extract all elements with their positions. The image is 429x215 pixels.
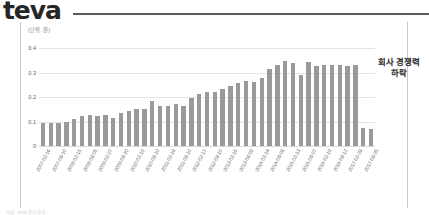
bar <box>260 78 264 146</box>
bar <box>127 111 131 146</box>
y-axis-tick-label: 0 <box>21 143 36 149</box>
x-axis-tick-label: 2010-08-10 <box>144 148 161 173</box>
bar <box>166 106 170 146</box>
bar <box>220 89 224 146</box>
bar <box>213 92 217 146</box>
bar <box>64 122 68 146</box>
bar <box>72 119 76 146</box>
bar <box>291 63 295 146</box>
y-axis-tick-label: 0.2 <box>21 94 36 100</box>
bar <box>306 62 310 146</box>
y-axis-tick-label: 0.1 <box>21 119 36 125</box>
bar-series <box>39 36 375 146</box>
bar <box>361 128 365 146</box>
bar <box>56 123 60 146</box>
x-axis-tick-label: 2012-02-17 <box>191 148 208 173</box>
bar <box>353 65 357 146</box>
x-axis-tick-label: 2015-08-07 <box>300 148 317 173</box>
y-axis-tick-label: 0.3 <box>21 70 36 76</box>
x-axis-tick-label: 2009-02-27 <box>97 148 114 173</box>
source-caption: 자료 : teva 주가 추이 <box>6 209 45 215</box>
bar <box>252 82 256 146</box>
annotation-line-2: 하락 <box>369 68 429 79</box>
header-divider <box>73 13 429 15</box>
x-axis-tick-label: 2007-08-10 <box>50 148 67 173</box>
bar <box>314 66 318 146</box>
bar <box>49 123 53 146</box>
y-axis-tick-label: 0.4 <box>21 45 36 51</box>
bar <box>158 106 162 146</box>
bar <box>95 116 99 146</box>
bar <box>345 66 349 146</box>
bar <box>369 129 373 146</box>
bar <box>267 69 271 146</box>
teva-logo: teva <box>3 0 61 24</box>
bar <box>174 104 178 146</box>
bar <box>142 109 146 146</box>
x-axis-tick-label: 2013-08-09 <box>238 148 255 173</box>
bar <box>150 101 154 146</box>
plot-area: 00.10.20.30.4 <box>39 36 375 146</box>
x-axis-tick-label: 2017-08-25 <box>363 148 380 173</box>
annotation-line-1: 회사 경쟁력 <box>369 57 429 68</box>
chart-page: teva (단위 : 원) 00.10.20.30.4 2007-02-1620… <box>0 0 429 215</box>
x-axis-tick-label: 2007-02-16 <box>34 148 51 173</box>
bar <box>197 94 201 146</box>
bar <box>283 61 287 146</box>
stock-price-bar-chart: (단위 : 원) 00.10.20.30.4 2007-02-162007-08… <box>20 22 408 208</box>
bar <box>189 98 193 146</box>
header: teva <box>0 0 429 24</box>
x-axis-tick-label: 2009-08-10 <box>112 148 129 173</box>
bar <box>236 83 240 146</box>
bar <box>134 109 138 146</box>
x-axis-tick-label: 2016-02-19 <box>316 148 333 173</box>
bar <box>244 81 248 146</box>
bar <box>111 118 115 146</box>
x-axis-tick-label: 2014-08-08 <box>269 148 286 173</box>
bar <box>41 123 45 146</box>
bar <box>322 65 326 146</box>
bar <box>299 75 303 146</box>
unit-label: (단위 : 원) <box>28 26 50 33</box>
bar <box>275 65 279 146</box>
bar <box>88 115 92 146</box>
bar <box>103 115 107 146</box>
x-axis-tick-label: 2015-02-13 <box>284 148 301 173</box>
bar <box>80 116 84 146</box>
x-axis-tick-label: 2011-02-18 <box>160 148 177 172</box>
x-axis-tick-label: 2013-02-15 <box>222 148 239 173</box>
gridline <box>39 146 375 147</box>
bar <box>181 106 185 146</box>
x-axis-tick-label: 2017-02-28 <box>347 148 364 173</box>
bar <box>119 113 123 146</box>
x-axis-labels: 2007-02-162007-08-102008-02-152008-08-05… <box>39 148 375 206</box>
bar <box>205 92 209 146</box>
x-axis-tick-label: 2008-02-15 <box>66 148 83 173</box>
bar <box>330 65 334 146</box>
competitiveness-decline-annotation: 회사 경쟁력 하락 <box>369 57 429 79</box>
bar <box>228 86 232 146</box>
x-axis-tick-label: 2011-08-10 <box>175 148 192 172</box>
bar <box>338 65 342 146</box>
